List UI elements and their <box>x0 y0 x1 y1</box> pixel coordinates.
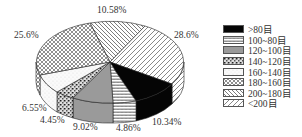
label-25-6: 25.6% <box>14 30 39 40</box>
legend-swatch-icon <box>223 57 244 65</box>
pie-top-slices <box>36 21 183 103</box>
label-10-58: 10.58% <box>97 5 126 15</box>
pie-chart: 10.58% 28.6% 25.6% 6.55% 4.45% 9.02% 4.8… <box>0 0 220 137</box>
legend-swatch-icon <box>223 78 244 86</box>
legend-swatch-icon <box>223 36 244 44</box>
legend-label: <200目 <box>248 96 278 110</box>
label-28-6: 28.6% <box>174 30 199 40</box>
label-9-02: 9.02% <box>73 122 98 132</box>
legend-swatch-icon <box>223 99 244 107</box>
label-6-55: 6.55% <box>22 103 47 113</box>
label-10-34: 10.34% <box>152 117 181 127</box>
legend: >80目 100~80目 120~100目 140~120目 160~140目 … <box>223 24 292 109</box>
legend-swatch-icon <box>223 46 244 54</box>
legend-swatch-icon <box>223 25 244 33</box>
legend-swatch-icon <box>223 89 244 97</box>
label-4-45: 4.45% <box>40 115 65 125</box>
label-4-86: 4.86% <box>116 123 141 133</box>
legend-swatch-icon <box>223 68 244 76</box>
